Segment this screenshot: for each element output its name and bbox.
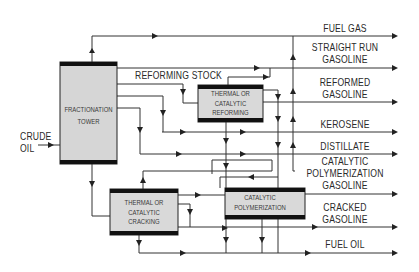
reformed-label: REFORMED GASOLINE bbox=[308, 76, 382, 100]
reforming-stock-label: REFORMING STOCK bbox=[135, 69, 222, 81]
label-line: OIL bbox=[20, 142, 51, 154]
label-line: CATALYTIC bbox=[300, 155, 390, 167]
label-line: GASOLINE bbox=[308, 88, 382, 100]
label-line: STRAIGHT RUN bbox=[304, 41, 386, 53]
label-line: CATALYTIC bbox=[117, 208, 171, 218]
reforming-label: THERMAL OR CATALYTIC REFORMING bbox=[201, 89, 260, 118]
fuel-oil-label: FUEL OIL bbox=[308, 238, 382, 250]
label-line: GASOLINE bbox=[300, 179, 390, 191]
label-line: CRUDE bbox=[20, 130, 51, 142]
cracking-label: THERMAL OR CATALYTIC CRACKING bbox=[117, 198, 171, 227]
label-line: FRACTIONATION bbox=[60, 105, 117, 115]
label-line: REFORMING bbox=[201, 108, 260, 118]
polymerization-label: CATALYTIC POLYMERIZATION bbox=[230, 193, 290, 212]
fractionation-tower-label: FRACTIONATION TOWER bbox=[60, 105, 117, 126]
crude-oil-label: CRUDE OIL bbox=[20, 130, 51, 154]
label-line: CRACKING bbox=[117, 217, 171, 227]
label-line: CATALYTIC bbox=[201, 99, 260, 109]
label-line: GASOLINE bbox=[304, 53, 386, 65]
kerosene-label: KEROSENE bbox=[308, 118, 382, 130]
label-line: TOWER bbox=[60, 117, 117, 127]
label-line: THERMAL OR bbox=[117, 198, 171, 208]
label-line: CRACKED bbox=[308, 201, 382, 213]
label-line: POLYMERIZATION bbox=[230, 203, 290, 213]
label-line: THERMAL OR bbox=[201, 89, 260, 99]
label-line: GASOLINE bbox=[308, 213, 382, 225]
cat-poly-label: CATALYTIC POLYMERIZATION GASOLINE bbox=[300, 155, 390, 191]
distillate-label: DISTILLATE bbox=[308, 140, 382, 152]
straight-run-label: STRAIGHT RUN GASOLINE bbox=[304, 41, 386, 65]
label-line: REFORMED bbox=[308, 76, 382, 88]
cracked-label: CRACKED GASOLINE bbox=[308, 201, 382, 225]
label-line: POLYMERIZATION bbox=[300, 167, 390, 179]
label-line: CATALYTIC bbox=[230, 193, 290, 203]
fuel-gas-label: FUEL GAS bbox=[308, 22, 382, 34]
